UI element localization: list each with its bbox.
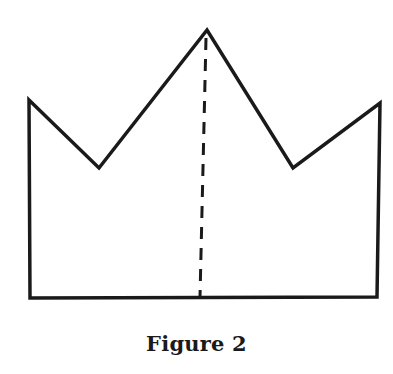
fold-line-dashed (200, 38, 206, 297)
figure-caption: Figure 2 (0, 331, 393, 356)
crown-diagram (0, 0, 393, 320)
